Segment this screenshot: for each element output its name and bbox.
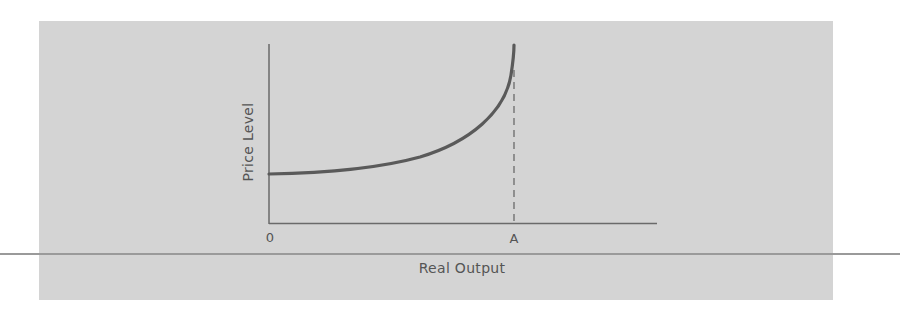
origin-tick-label: 0 (266, 230, 275, 245)
aggregate-supply-curve (269, 45, 514, 174)
x-axis-label: Real Output (419, 260, 506, 276)
capacity-tick-label: A (509, 231, 518, 246)
y-axis-label: Price Level (240, 103, 256, 182)
horizontal-rule (0, 253, 900, 255)
